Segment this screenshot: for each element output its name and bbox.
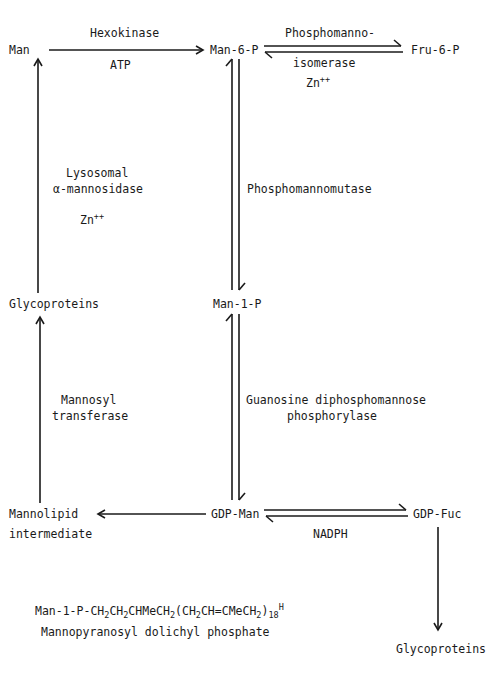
node-man-6-p: Man-6-P (210, 43, 258, 57)
label-phosphomannomutase: Phosphomannomutase (247, 182, 372, 196)
label-guanosine-diphosphomannose: Guanosine diphosphomannose (246, 393, 426, 407)
label-isomerase-zn: Zn++ (306, 72, 330, 90)
label-mannosyl: Mannosyl (61, 393, 116, 407)
label-atp: ATP (110, 58, 131, 72)
label-lysosomal: Lysosomal (66, 166, 128, 180)
label-nadph: NADPH (313, 527, 348, 541)
node-mannolipid: Mannolipid (9, 507, 78, 521)
node-mannolipid-intermediate: intermediate (9, 527, 92, 541)
node-glycoproteins-left: Glycoproteins (9, 297, 99, 311)
node-fru-6-p: Fru-6-P (411, 43, 459, 57)
node-man-1-p: Man-1-P (213, 297, 261, 311)
label-phosphomanno: Phosphomanno- (285, 26, 375, 40)
formula-caption: Mannopyranosyl dolichyl phosphate (41, 625, 269, 639)
label-transferase: transferase (52, 409, 128, 423)
node-glycoproteins-bottom: Glycoproteins (396, 642, 486, 656)
node-gdp-fuc: GDP-Fuc (413, 507, 461, 521)
label-alpha-mannosidase: α-mannosidase (53, 182, 143, 196)
label-isomerase: isomerase (293, 56, 355, 70)
label-phosphorylase: phosphorylase (287, 409, 377, 423)
label-hexokinase: Hexokinase (90, 26, 159, 40)
label-mannosidase-zn: Zn++ (80, 209, 104, 227)
node-gdp-man: GDP-Man (211, 507, 259, 521)
pathway-arrows (0, 0, 487, 686)
node-man: Man (9, 43, 30, 57)
dolichyl-formula: Man-1-P-CH2CH2CHMeCH2(CH2CH=CMeCH2)18H (35, 600, 284, 622)
